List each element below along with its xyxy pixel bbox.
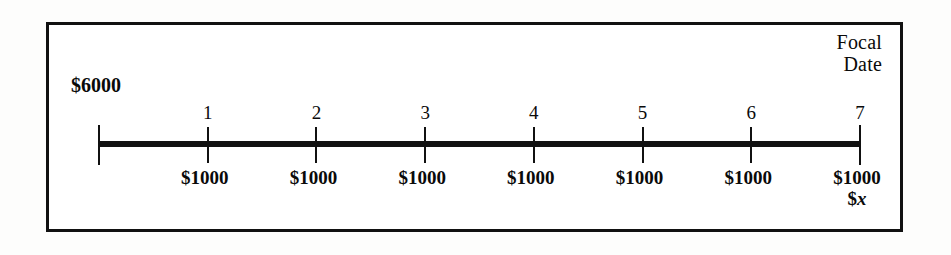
currency-sigil: $ [848, 188, 858, 209]
timeline-tick-0 [98, 125, 100, 165]
timeline-axis [99, 141, 860, 147]
timeline-tick-5 [642, 127, 644, 163]
period-number-6: 6 [721, 103, 781, 122]
payment-amount-2: $1000 [290, 167, 338, 188]
payment-label-1: $1000 [150, 167, 260, 188]
payment-amount-7: $1000 [833, 167, 881, 188]
timeline-tick-2 [315, 127, 317, 163]
payment-label-2: $1000 [258, 167, 368, 188]
unknown-variable-symbol: x [857, 188, 867, 209]
payment-label-4: $1000 [476, 167, 586, 188]
payment-label-6: $1000 [693, 167, 803, 188]
payment-amount-5: $1000 [616, 167, 664, 188]
timeline-tick-3 [424, 127, 426, 163]
figure-canvas: Focal Date $6000 1$10002$10003$10004$100… [0, 0, 951, 255]
period-number-2: 2 [286, 103, 346, 122]
payment-label-5: $1000 [585, 167, 695, 188]
unknown-amount-label: $x [802, 188, 912, 209]
timeline-tick-7 [859, 125, 861, 165]
figure-frame: Focal Date $6000 1$10002$10003$10004$100… [46, 22, 903, 232]
payment-label-3: $1000 [367, 167, 477, 188]
period-number-1: 1 [178, 103, 238, 122]
payment-amount-3: $1000 [398, 167, 446, 188]
period-number-3: 3 [395, 103, 455, 122]
payment-amount-4: $1000 [507, 167, 555, 188]
payment-amount-1: $1000 [181, 167, 229, 188]
period-number-7: 7 [830, 103, 890, 122]
payment-amount-6: $1000 [725, 167, 773, 188]
timeline-tick-4 [533, 127, 535, 163]
period-number-4: 4 [504, 103, 564, 122]
timeline: 1$10002$10003$10004$10005$10006$10007$10… [49, 25, 900, 229]
timeline-tick-6 [750, 127, 752, 163]
timeline-tick-1 [207, 127, 209, 163]
payment-label-7: $1000$x [802, 167, 912, 209]
period-number-5: 5 [613, 103, 673, 122]
